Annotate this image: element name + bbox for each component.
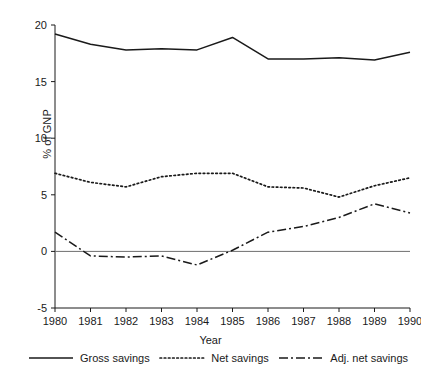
chart-figure: -505101520 19801981198219831984198519861… [0, 0, 421, 384]
x-tick-label: 1981 [78, 315, 102, 327]
line-chart-plot: -505101520 19801981198219831984198519861… [0, 0, 421, 384]
legend-item-label: Net savings [211, 352, 268, 364]
y-tick-label: 20 [35, 19, 47, 31]
x-tick-label: 1982 [114, 315, 138, 327]
series-line-adj-net-savings [55, 204, 410, 265]
x-tick-label: 1983 [149, 315, 173, 327]
x-axis-tick-group: 1980198119821983198419851986198719881989… [43, 308, 421, 327]
x-tick-label: 1980 [43, 315, 67, 327]
legend-line-sample-icon [159, 353, 205, 363]
x-tick-label: 1984 [185, 315, 209, 327]
y-tick-label: 0 [41, 245, 47, 257]
x-axis-title: Year [0, 334, 421, 346]
x-tick-label: 1989 [362, 315, 386, 327]
x-tick-label: 1990 [398, 315, 421, 327]
series-line-gross-savings [55, 34, 410, 60]
legend-line-sample-icon [278, 353, 324, 363]
legend-item-label: Gross savings [80, 352, 150, 364]
y-tick-label: -5 [37, 302, 47, 314]
x-tick-label: 1985 [220, 315, 244, 327]
legend-line-sample-icon [28, 353, 74, 363]
chart-legend: Gross savingsNet savingsAdj. net savings [28, 352, 408, 364]
y-tick-label: 5 [41, 189, 47, 201]
x-tick-label: 1986 [256, 315, 280, 327]
legend-item[interactable]: Adj. net savings [278, 352, 408, 364]
x-tick-label: 1987 [291, 315, 315, 327]
data-series-group [55, 34, 410, 265]
legend-item[interactable]: Net savings [159, 352, 268, 364]
y-axis-title: % of GNP [41, 89, 53, 179]
y-tick-label: 15 [35, 76, 47, 88]
legend-item[interactable]: Gross savings [28, 352, 150, 364]
legend-item-label: Adj. net savings [330, 352, 408, 364]
x-tick-label: 1988 [327, 315, 351, 327]
series-line-net-savings [55, 173, 410, 197]
